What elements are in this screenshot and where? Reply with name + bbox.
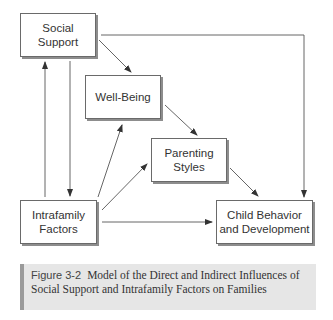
node-well-being: Well-Being: [85, 75, 161, 119]
node-label: and Development: [219, 223, 309, 235]
caption-accent-bar: [20, 264, 24, 310]
node-child-behavior: Child Behaviorand Development: [216, 200, 313, 244]
arrow-social-to-wellbeing: [99, 40, 131, 72]
node-label: Well-Being: [95, 90, 150, 104]
arrow-intrafamily-to-wellbeing: [98, 125, 122, 197]
figure-label: Figure 3-2: [31, 269, 81, 281]
node-label: Social: [42, 22, 73, 34]
node-intrafamily-factors: IntrafamilyFactors: [20, 200, 97, 244]
arrow-wellbeing-to-parenting: [165, 105, 197, 135]
node-label: Support: [38, 36, 78, 48]
node-label: Factors: [39, 223, 77, 235]
node-social-support: SocialSupport: [20, 13, 96, 57]
node-label: Styles: [173, 161, 204, 173]
node-parenting-styles: ParentingStyles: [151, 138, 227, 182]
node-label: Child Behavior: [227, 209, 302, 221]
arrow-intrafamily-to-parenting: [102, 164, 147, 210]
figure-caption: Figure 3-2Model of the Direct and Indire…: [20, 264, 316, 310]
node-label: Parenting: [164, 147, 213, 159]
arrow-parenting-to-child: [230, 168, 258, 196]
node-label: Intrafamily: [32, 209, 85, 221]
